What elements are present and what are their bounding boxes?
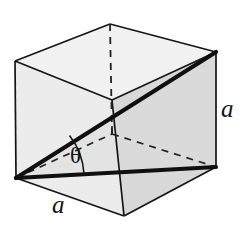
label-edge-a-right: a <box>221 96 234 121</box>
edge-vertical-left <box>15 61 16 178</box>
cube-drawing <box>0 0 247 230</box>
cube-diagonal-figure: a a θ <box>0 0 247 230</box>
label-angle-theta: θ <box>70 144 81 167</box>
label-edge-a-bottom: a <box>52 192 65 217</box>
